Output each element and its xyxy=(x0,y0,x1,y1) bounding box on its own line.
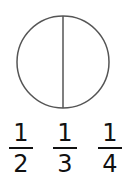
denominator: 2 xyxy=(9,152,33,176)
fraction-bar xyxy=(53,147,77,149)
fraction-bar xyxy=(9,147,33,149)
fraction-bar xyxy=(98,147,122,149)
numerator: 1 xyxy=(53,121,77,145)
fraction-option-half[interactable]: 1 2 xyxy=(9,121,33,176)
fraction-option-third[interactable]: 1 3 xyxy=(53,121,77,176)
denominator: 3 xyxy=(53,152,77,176)
circle-diagram xyxy=(0,0,122,115)
numerator: 1 xyxy=(98,121,122,145)
fraction-option-quarter[interactable]: 1 4 xyxy=(98,121,122,176)
denominator: 4 xyxy=(98,152,122,176)
numerator: 1 xyxy=(9,121,33,145)
